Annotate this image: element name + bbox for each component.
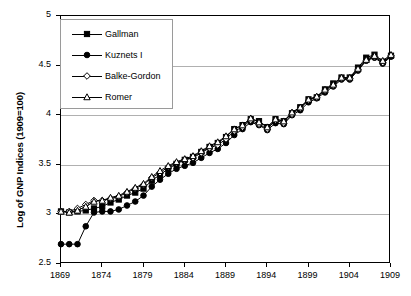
legend-marker-filled-circle-icon (72, 49, 102, 61)
legend-item-label: Kuznets I (105, 50, 143, 60)
legend-marker-open-diamond-icon (72, 70, 102, 82)
legend-item-romer[interactable]: Romer (61, 86, 174, 108)
legend-item-label: Romer (105, 92, 132, 102)
y-axis-tick-label: 5 (25, 10, 51, 19)
data-point (132, 199, 138, 205)
gnp-indices-chart: Log of GNP Indices (1909=100) 54.543.532… (0, 0, 411, 296)
x-axis-tick-label: 1874 (81, 270, 121, 280)
data-point (141, 193, 147, 199)
legend-item-balke-gordon[interactable]: Balke-Gordon (61, 65, 174, 87)
x-axis-tick-label: 1889 (205, 270, 245, 280)
y-axis-tick-label: 3 (25, 208, 51, 217)
data-point (165, 171, 171, 177)
data-point (116, 207, 122, 213)
data-point (75, 241, 81, 247)
legend-marker-filled-square-icon (72, 28, 102, 40)
x-axis-tick-label: 1894 (246, 270, 286, 280)
y-axis-tick-label: 4 (25, 109, 51, 118)
data-point (66, 241, 72, 247)
y-axis-tick-label: 3.5 (25, 159, 51, 168)
legend-item-gallman[interactable]: Gallman (61, 23, 174, 45)
x-axis-tick-label: 1899 (288, 270, 328, 280)
x-axis-tick-label: 1904 (329, 270, 369, 280)
legend: GallmanKuznets IBalke-GordonRomer (60, 19, 173, 109)
y-axis-tick-label: 2.5 (25, 258, 51, 267)
data-point (83, 224, 89, 230)
data-point (149, 184, 155, 190)
data-point (157, 177, 163, 183)
data-point (99, 209, 105, 215)
x-axis-tick-label: 1869 (40, 270, 80, 280)
x-axis-tick-label: 1909 (370, 270, 410, 280)
legend-item-label: Balke-Gordon (105, 71, 161, 81)
data-point (108, 209, 114, 215)
data-point (91, 210, 97, 216)
x-axis-tick-label: 1884 (164, 270, 204, 280)
data-point (124, 203, 130, 209)
legend-item-label: Gallman (105, 29, 139, 39)
legend-item-kuznets-i[interactable]: Kuznets I (61, 44, 174, 66)
data-point (58, 241, 64, 247)
legend-marker-open-triangle-icon (72, 91, 102, 103)
x-axis-tick-label: 1879 (123, 270, 163, 280)
y-axis-tick-label: 4.5 (25, 60, 51, 69)
y-axis-title: Log of GNP Indices (1909=100) (14, 92, 25, 228)
